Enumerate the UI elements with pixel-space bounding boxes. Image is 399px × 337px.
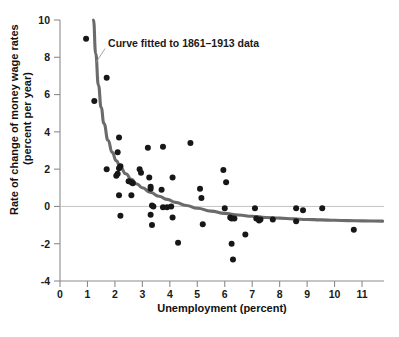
data-point	[150, 203, 156, 209]
data-point	[197, 186, 203, 192]
data-point	[115, 149, 121, 155]
data-point	[175, 240, 181, 246]
x-tick-label: 1	[85, 288, 91, 300]
x-tick-label: 8	[277, 288, 283, 300]
data-point	[187, 140, 193, 146]
data-point	[148, 184, 154, 190]
data-point	[117, 213, 123, 219]
x-tick-label: 7	[249, 288, 255, 300]
data-point	[300, 207, 306, 213]
data-point	[170, 215, 176, 221]
data-point	[148, 212, 154, 218]
data-point	[145, 145, 151, 151]
data-point	[83, 36, 89, 42]
y-tick-label: 6	[44, 88, 50, 100]
data-point	[293, 205, 299, 211]
data-point	[146, 175, 152, 181]
data-point	[170, 175, 176, 181]
curve-annotation-label: Curve fitted to 1861–1913 data	[108, 37, 259, 49]
data-point	[138, 170, 144, 176]
y-tick-label: -4	[41, 275, 50, 287]
y-axis-title: Rate of change of money wage rates (perc…	[8, 24, 33, 215]
data-point	[159, 187, 165, 193]
data-point	[104, 166, 110, 172]
x-tick-label: 2	[112, 288, 118, 300]
data-point	[200, 221, 206, 227]
data-point	[91, 98, 97, 104]
data-point	[242, 231, 248, 237]
y-axis-title-line1: Rate of change of money wage rates	[8, 24, 20, 215]
data-point	[130, 180, 136, 186]
x-tick-label: 9	[304, 288, 310, 300]
data-point	[257, 216, 263, 222]
data-point	[222, 205, 228, 211]
data-point	[116, 165, 122, 171]
data-points-group	[83, 36, 357, 263]
data-point	[230, 257, 236, 263]
data-point	[223, 179, 229, 185]
x-tick-label: 0	[57, 288, 63, 300]
x-axis-title: Unemployment (percent)	[157, 302, 287, 314]
x-tick-label: 3	[139, 288, 145, 300]
x-tick-label: 6	[222, 288, 228, 300]
y-tick-label: 10	[38, 14, 50, 26]
y-tick-label: 2	[44, 163, 50, 175]
y-axis-title-line2: (percent per year)	[21, 72, 33, 165]
data-point	[351, 227, 357, 233]
data-point	[252, 205, 258, 211]
data-point	[198, 195, 204, 201]
x-axis-ticks: 01234567891011	[57, 281, 368, 300]
data-point	[113, 173, 119, 179]
x-tick-label: 5	[194, 288, 200, 300]
data-point	[293, 218, 299, 224]
data-point	[270, 216, 276, 222]
x-tick-label: 10	[329, 288, 341, 300]
data-point	[160, 144, 166, 150]
data-point	[231, 216, 237, 222]
phillips-curve-figure: Rate of change of money wage rates (perc…	[0, 0, 399, 337]
data-point	[116, 192, 122, 198]
data-point	[104, 75, 110, 81]
data-point	[319, 205, 325, 211]
x-tick-label: 4	[167, 288, 173, 300]
y-tick-label: -2	[41, 238, 50, 250]
data-point	[220, 167, 226, 173]
data-point	[168, 203, 174, 209]
data-point	[128, 192, 134, 198]
y-tick-label: 4	[44, 126, 50, 138]
data-point	[116, 134, 122, 140]
scatter-chart: Rate of change of money wage rates (perc…	[0, 0, 399, 337]
fitted-curve	[94, 20, 383, 221]
x-tick-label: 11	[356, 288, 367, 300]
y-tick-label: 8	[44, 51, 50, 63]
y-axis-ticks: -4-20246810	[38, 14, 60, 287]
data-point	[149, 222, 155, 228]
y-tick-label: 0	[44, 200, 50, 212]
data-point	[229, 241, 235, 247]
